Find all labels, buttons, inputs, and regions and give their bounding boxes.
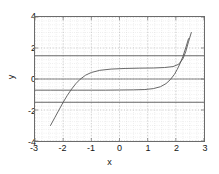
series-lower-sigmoid-branch bbox=[35, 39, 189, 90]
x-axis-label: x bbox=[0, 157, 219, 167]
y-axis-label: y bbox=[6, 62, 16, 92]
x-tick-label: -2 bbox=[53, 144, 73, 153]
figure-container: 4 2 0 -2 -4 -3 -2 -1 0 1 2 3 x y bbox=[0, 0, 219, 174]
x-tick-label: 3 bbox=[195, 144, 215, 153]
x-tick-label: -1 bbox=[81, 144, 101, 153]
x-tick-label: 2 bbox=[167, 144, 187, 153]
x-tick-label: 0 bbox=[110, 144, 130, 153]
y-tick-label: 2 bbox=[12, 43, 36, 52]
plot-area bbox=[34, 16, 205, 142]
x-tick-label: 1 bbox=[138, 144, 158, 153]
y-tick-label: -2 bbox=[12, 106, 36, 115]
y-tick-label: 4 bbox=[12, 12, 36, 21]
x-tick-label: -3 bbox=[24, 144, 44, 153]
curve-layer bbox=[35, 17, 204, 141]
